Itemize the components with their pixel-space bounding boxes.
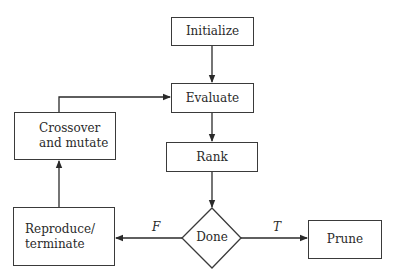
node-crossover-line1: Crossover xyxy=(39,121,108,136)
node-initialize-label: Initialize xyxy=(186,24,239,39)
edge-label-true: T xyxy=(273,220,281,234)
node-reproduce-line1: Reproduce/ xyxy=(25,222,95,237)
node-rank: Rank xyxy=(166,142,258,172)
node-prune: Prune xyxy=(308,220,382,259)
node-crossover-line2: and mutate xyxy=(39,136,108,151)
node-evaluate-label: Evaluate xyxy=(186,91,239,106)
node-crossover-mutate: Crossover and mutate xyxy=(14,112,116,160)
node-reproduce-text: Reproduce/ terminate xyxy=(25,222,95,252)
node-initialize: Initialize xyxy=(171,17,254,46)
node-rank-label: Rank xyxy=(196,150,227,165)
edge-label-false: F xyxy=(152,220,160,234)
node-evaluate: Evaluate xyxy=(171,83,254,113)
node-done-label: Done xyxy=(182,230,242,244)
node-crossover-text: Crossover and mutate xyxy=(39,121,108,151)
node-reproduce-line2: terminate xyxy=(25,237,95,252)
edge-crossover-evaluate xyxy=(59,97,170,112)
node-prune-label: Prune xyxy=(327,232,363,247)
node-reproduce-terminate: Reproduce/ terminate xyxy=(13,207,115,266)
